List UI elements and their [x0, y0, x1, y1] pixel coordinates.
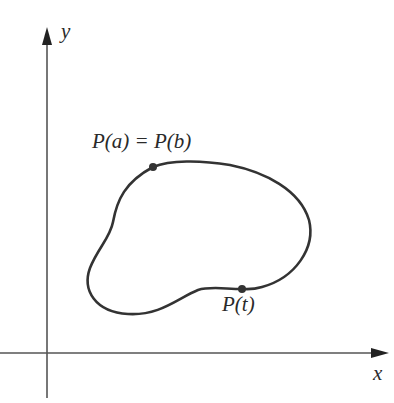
y-axis-arrow-icon [42, 27, 52, 45]
x-axis-arrow-icon [371, 348, 389, 358]
y-axis-label: y [61, 21, 70, 42]
closed-curve-diagram: y x P(a) = P(b) P(t) [0, 0, 394, 403]
point-p-t-label: P(t) [222, 294, 255, 315]
x-axis [0, 348, 389, 358]
y-axis [42, 27, 52, 398]
diagram-canvas [0, 0, 394, 403]
point-p-a-marker [149, 163, 157, 171]
point-p-a-label: P(a) = P(b) [92, 131, 191, 152]
closed-curve [88, 161, 311, 314]
x-axis-label: x [373, 363, 382, 384]
